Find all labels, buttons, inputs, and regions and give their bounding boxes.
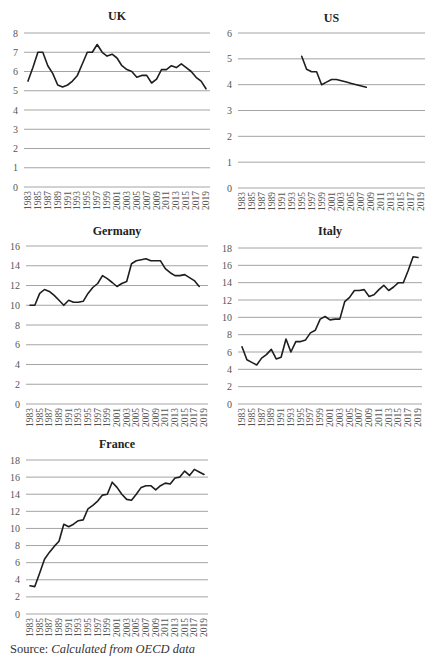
x-tick-label: 2007 — [354, 408, 364, 427]
x-tick-label: 1987 — [43, 191, 53, 210]
source-label: Source: — [10, 642, 48, 656]
x-tick-label: 1997 — [307, 192, 317, 211]
x-tick-label: 2015 — [393, 408, 403, 427]
x-tick-label: 2015 — [396, 192, 406, 211]
x-tick-label: 2019 — [199, 618, 209, 637]
y-tick-label: 6 — [15, 557, 20, 568]
x-tick-label: 2007 — [142, 191, 152, 210]
chart-germany: Germany024681012141619831985198719891991… — [0, 220, 218, 435]
x-tick-label: 1983 — [237, 408, 247, 427]
x-tick-label: 1993 — [73, 618, 83, 637]
x-tick-label: 1987 — [257, 192, 267, 211]
chart-svg: Germany024681012141619831985198719891991… — [0, 220, 218, 435]
y-tick-label: 2 — [227, 381, 232, 392]
chart-title: US — [324, 11, 340, 25]
y-tick-label: 10 — [10, 300, 20, 311]
x-tick-label: 2015 — [180, 408, 190, 427]
y-tick-label: 0 — [15, 399, 20, 410]
source-note: Source: Calculated from OECD data — [10, 642, 195, 657]
y-tick-label: 4 — [13, 105, 18, 116]
x-tick-label: 2001 — [112, 618, 122, 637]
x-tick-label: 2009 — [151, 408, 161, 427]
y-tick-label: 8 — [15, 320, 20, 331]
x-tick-label: 1995 — [297, 192, 307, 211]
x-tick-label: 1991 — [277, 192, 287, 211]
x-tick-label: 2013 — [170, 618, 180, 637]
x-tick-label: 1987 — [257, 408, 267, 427]
chart-title: France — [99, 437, 136, 451]
chart-title: Italy — [318, 224, 342, 238]
y-tick-label: 12 — [10, 506, 20, 517]
x-tick-label: 1985 — [35, 618, 45, 637]
y-tick-label: 0 — [227, 399, 232, 410]
x-tick-label: 1997 — [92, 191, 102, 210]
x-tick-label: 1999 — [317, 192, 327, 211]
y-tick-label: 7 — [13, 47, 18, 58]
x-tick-label: 2019 — [413, 408, 423, 427]
x-tick-label: 1989 — [266, 408, 276, 427]
y-tick-label: 1 — [13, 162, 18, 173]
x-tick-label: 2009 — [151, 618, 161, 637]
y-tick-label: 8 — [15, 540, 20, 551]
x-tick-label: 1999 — [315, 408, 325, 427]
x-tick-label: 2011 — [374, 408, 384, 427]
x-tick-label: 2009 — [366, 192, 376, 211]
x-tick-label: 1983 — [23, 191, 33, 210]
x-tick-label: 2005 — [345, 408, 355, 427]
chart-title: Germany — [93, 224, 142, 238]
x-tick-label: 1997 — [93, 408, 103, 427]
series-line — [28, 45, 206, 89]
x-tick-label: 2003 — [122, 618, 132, 637]
x-tick-label: 2005 — [132, 191, 142, 210]
y-tick-label: 16 — [222, 260, 232, 271]
x-tick-label: 2011 — [160, 618, 170, 637]
y-tick-label: 6 — [13, 66, 18, 77]
x-tick-label: 1987 — [44, 408, 54, 427]
x-tick-label: 2001 — [112, 408, 122, 427]
series-line — [242, 257, 418, 365]
series-line — [302, 56, 367, 87]
x-tick-label: 1993 — [286, 408, 296, 427]
x-tick-label: 1985 — [35, 408, 45, 427]
y-tick-label: 18 — [10, 455, 20, 466]
y-tick-label: 0 — [227, 183, 232, 194]
y-tick-label: 10 — [222, 312, 232, 323]
x-tick-label: 2007 — [356, 192, 366, 211]
x-tick-label: 2003 — [122, 408, 132, 427]
y-tick-label: 16 — [10, 472, 20, 483]
x-tick-label: 2015 — [180, 618, 190, 637]
x-tick-label: 1983 — [25, 408, 35, 427]
y-tick-label: 4 — [227, 79, 232, 90]
x-tick-label: 1995 — [82, 191, 92, 210]
y-tick-label: 6 — [227, 28, 232, 39]
x-tick-label: 1995 — [83, 618, 93, 637]
y-tick-label: 0 — [15, 609, 20, 620]
y-tick-label: 14 — [10, 260, 20, 271]
chart-title: UK — [108, 9, 127, 23]
y-tick-label: 2 — [227, 131, 232, 142]
chart-italy: Italy02468101214161819831985198719891991… — [222, 220, 440, 435]
x-tick-label: 1995 — [83, 408, 93, 427]
y-tick-label: 5 — [13, 85, 18, 96]
x-tick-label: 1991 — [276, 408, 286, 427]
x-tick-label: 2013 — [384, 408, 394, 427]
x-tick-label: 1999 — [102, 408, 112, 427]
x-tick-label: 2017 — [189, 408, 199, 427]
x-tick-label: 1983 — [25, 618, 35, 637]
x-tick-label: 1989 — [267, 192, 277, 211]
x-tick-label: 2001 — [112, 191, 122, 210]
chart-france: France0246810121416181983198519871989199… — [0, 432, 218, 642]
y-tick-label: 4 — [15, 359, 20, 370]
x-tick-label: 2007 — [141, 618, 151, 637]
x-tick-label: 2013 — [386, 192, 396, 211]
chart-svg: Italy02468101214161819831985198719891991… — [222, 220, 440, 435]
y-tick-label: 8 — [227, 329, 232, 340]
y-tick-label: 2 — [15, 379, 20, 390]
x-tick-label: 1991 — [64, 408, 74, 427]
y-tick-label: 12 — [222, 295, 232, 306]
y-tick-label: 4 — [15, 574, 20, 585]
y-tick-label: 6 — [227, 347, 232, 358]
x-tick-label: 1999 — [102, 618, 112, 637]
x-tick-label: 2019 — [416, 192, 426, 211]
x-tick-label: 1993 — [72, 191, 82, 210]
